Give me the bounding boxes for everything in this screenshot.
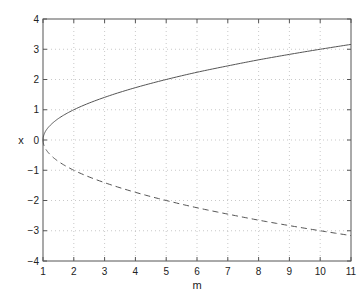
y-tick-label: 1 (33, 104, 39, 115)
x-tick-label: 10 (315, 266, 327, 277)
y-axis-label: x (18, 134, 24, 146)
y-tick-label: 4 (33, 14, 39, 25)
x-tick-label: 4 (133, 266, 139, 277)
chart: 1234567891011 −4−3−2−101234 m x (0, 0, 360, 297)
x-tick-label: 7 (225, 266, 231, 277)
x-axis-label: m (192, 279, 201, 291)
y-tick-label: 3 (33, 44, 39, 55)
x-tick-label: 1 (40, 266, 46, 277)
y-tick-label: −3 (28, 225, 40, 236)
x-tick-label: 11 (346, 266, 357, 277)
x-tick-label: 8 (256, 266, 262, 277)
series-line (43, 44, 351, 140)
y-tick-labels: −4−3−2−101234 (28, 14, 40, 267)
grid-lines (43, 19, 351, 261)
y-tick-label: −4 (28, 256, 40, 267)
y-tick-label: 2 (33, 74, 39, 85)
x-tick-label: 2 (71, 266, 77, 277)
y-tick-label: 0 (33, 135, 39, 146)
y-tick-label: −1 (28, 165, 40, 176)
x-tick-label: 3 (102, 266, 108, 277)
x-tick-label: 9 (287, 266, 293, 277)
y-tick-label: −2 (28, 195, 40, 206)
x-tick-label: 5 (163, 266, 169, 277)
x-tick-labels: 1234567891011 (40, 266, 356, 277)
x-tick-label: 6 (194, 266, 200, 277)
